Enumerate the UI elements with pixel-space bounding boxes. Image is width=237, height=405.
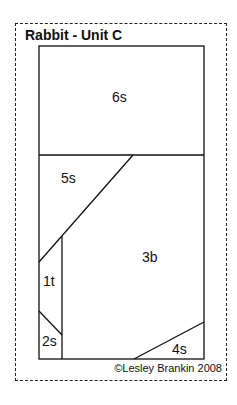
piece-label-4s: 4s (172, 341, 187, 357)
piece-label-5s: 5s (61, 170, 76, 186)
diagonal-seam-5s (39, 155, 133, 262)
piece-label-1t: 1t (43, 273, 55, 289)
piece-label-3b: 3b (142, 249, 158, 265)
diagonal-seam-2s (39, 311, 62, 335)
piece-label-6s: 6s (112, 89, 127, 105)
copyright-text: ©Lesley Brankin 2008 (114, 362, 222, 374)
diagonal-seam-4s (134, 322, 204, 359)
piece-label-2s: 2s (42, 333, 57, 349)
pattern-diagram: 6s 5s 3b 1t 2s 4s (0, 0, 237, 405)
